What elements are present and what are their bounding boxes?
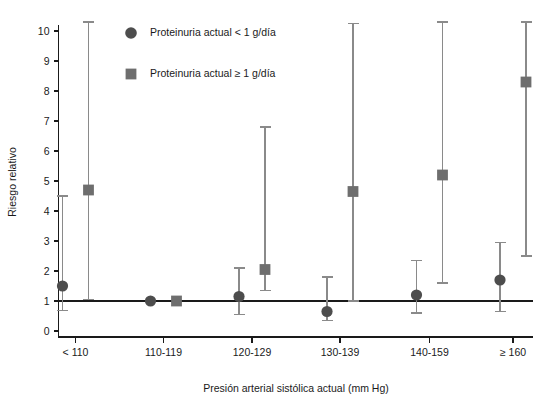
x-tick-label-5: ≥ 160 (500, 346, 526, 358)
data-point-square[interactable] (83, 185, 94, 196)
legend: Proteinuria actual < 1 g/díaProteinuria … (125, 26, 276, 79)
chart-svg: 012345678910 < 110110-119120-129130-1391… (0, 0, 547, 404)
data-point-circle[interactable] (411, 289, 422, 300)
x-tick-label-0: < 110 (63, 346, 89, 358)
y-tick-label-1: 1 (44, 295, 50, 307)
y-tick-label-4: 4 (44, 205, 50, 217)
y-tick-label-6: 6 (44, 145, 50, 157)
y-tick-label-7: 7 (44, 115, 50, 127)
data-point-circle[interactable] (321, 306, 332, 317)
data-point-circle[interactable] (233, 291, 244, 302)
series-high-proteinuria (83, 22, 532, 306)
x-tick-label-3: 130-139 (321, 346, 360, 358)
square-marker-icon (126, 69, 137, 80)
y-axis-title: Riesgo relativo (6, 147, 18, 217)
relative-risk-chart-figure: 012345678910 < 110110-119120-129130-1391… (0, 0, 547, 404)
legend-label-1: Proteinuria actual ≥ 1 g/día (150, 67, 276, 79)
data-point-square[interactable] (437, 170, 448, 181)
x-tick-label-1: 110-119 (145, 346, 182, 358)
data-point-square[interactable] (260, 264, 271, 275)
x-tick-label-4: 140-159 (410, 346, 449, 358)
legend-label-0: Proteinuria actual < 1 g/día (150, 26, 276, 38)
data-point-square[interactable] (348, 186, 359, 197)
data-point-square[interactable] (521, 77, 532, 88)
data-point-circle[interactable] (494, 274, 505, 285)
x-axis-ticks: < 110110-119120-129130-139140-159≥ 160 (63, 337, 527, 358)
x-tick-label-2: 120-129 (233, 346, 272, 358)
y-axis-ticks: 012345678910 (38, 25, 59, 337)
x-axis-title: Presión arterial sistólica actual (mm Hg… (203, 382, 389, 394)
data-point-circle[interactable] (145, 295, 156, 306)
y-tick-label-2: 2 (44, 265, 50, 277)
data-point-circle[interactable] (57, 280, 68, 291)
y-tick-label-8: 8 (44, 85, 50, 97)
y-tick-label-0: 0 (44, 325, 50, 337)
circle-marker-icon (125, 27, 137, 39)
data-point-square[interactable] (171, 296, 182, 307)
y-tick-label-5: 5 (44, 175, 50, 187)
data-series-layer (57, 22, 532, 321)
y-tick-label-3: 3 (44, 235, 50, 247)
y-tick-label-9: 9 (44, 55, 50, 67)
y-tick-label-10: 10 (38, 25, 50, 37)
